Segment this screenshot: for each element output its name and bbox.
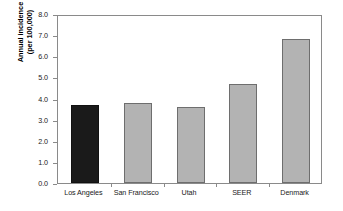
- x-axis-divider: [216, 183, 217, 187]
- y-axis-title: Annual incidence (per 100,000): [14, 0, 36, 82]
- plot-area: [57, 15, 322, 184]
- y-tick-label: 7.0: [38, 31, 48, 40]
- bar-utah: [177, 107, 205, 183]
- y-tick-label: 2.0: [38, 137, 48, 146]
- y-tick-mark: [53, 184, 57, 185]
- x-axis-divider: [111, 183, 112, 187]
- x-label-seer: SEER: [215, 188, 268, 197]
- y-tick-label: 4.0: [38, 95, 48, 104]
- y-axis-title-line-1: Annual incidence: [16, 2, 25, 62]
- y-tick-label: 6.0: [38, 52, 48, 61]
- x-label-denmark: Denmark: [268, 188, 321, 197]
- x-axis-divider: [269, 183, 270, 187]
- y-tick-label: 0.0: [38, 179, 48, 188]
- y-tick-label: 5.0: [38, 73, 48, 82]
- y-tick-label: 1.0: [38, 158, 48, 167]
- x-label-san-francisco: San Francisco: [110, 188, 163, 197]
- x-axis-divider: [164, 183, 165, 187]
- bar-chart-figure: Annual incidence (per 100,000) 8.0 7.0 6…: [0, 0, 343, 211]
- y-tick-label: 3.0: [38, 116, 48, 125]
- bar-san-francisco: [124, 103, 152, 183]
- bar-los-angeles: [71, 105, 99, 183]
- bar-seer: [229, 84, 257, 183]
- y-axis-title-line-2: (per 100,000): [25, 10, 34, 55]
- x-label-utah: Utah: [163, 188, 216, 197]
- x-label-los-angeles: Los Angeles: [57, 188, 110, 197]
- y-tick-label: 8.0: [38, 10, 48, 19]
- bar-denmark: [282, 39, 310, 183]
